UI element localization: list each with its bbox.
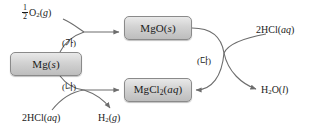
arrow-hcl-to-junction [52,90,84,110]
step-label-ga: (가) [62,36,76,49]
reagent-label-hcl-right: 2HCl(aq) [256,24,294,35]
node-mgo-label: MgO(s) [140,22,175,34]
reagent-label-o2: 12O2(g) [22,4,51,21]
step-label-na: (나) [62,80,76,93]
arrow-o2-to-junction [63,19,84,32]
arrow-hcl2-to-junction [224,34,266,53]
arrow-junction-to-h2 [84,90,110,108]
node-mgcl2-label: MgCl2(aq) [134,83,183,97]
node-mgcl2[interactable]: MgCl2(aq) [124,78,192,102]
node-mg-label: Mg(s) [32,58,59,70]
step-label-da: (다) [197,54,211,67]
product-label-h2o: H2O(l) [261,84,288,96]
reaction-diagram: Mg(s) MgO(s) MgCl2(aq) 12O2(g) 2HCl(aq) … [0,0,312,135]
reagent-label-hcl-left: 2HCl(aq) [22,112,60,123]
arrow-mgo-to-junction [192,28,224,53]
node-mgo[interactable]: MgO(s) [124,16,192,40]
arrow-junction-to-h2o [224,53,256,89]
fraction-one-half: 12 [22,4,28,21]
product-label-h2: H2(g) [98,112,120,124]
node-mg[interactable]: Mg(s) [10,52,82,76]
